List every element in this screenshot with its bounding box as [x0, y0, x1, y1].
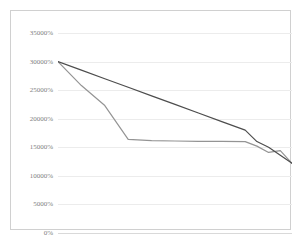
y-tick-label: 0% — [11, 229, 53, 237]
y-tick-label: 25000% — [11, 86, 53, 94]
line-series-1 — [58, 62, 292, 164]
y-tick-label: 35000% — [11, 29, 53, 37]
line-series-2 — [58, 62, 292, 164]
y-tick-label: 5000% — [11, 200, 53, 208]
y-tick-label: 30000% — [11, 58, 53, 66]
y-tick-label: 10000% — [11, 172, 53, 180]
y-tick-label: 20000% — [11, 115, 53, 123]
gridline-0% — [58, 233, 292, 234]
chart-frame: 35000%30000%25000%20000%15000%10000%5000… — [10, 10, 291, 230]
y-tick-label: 15000% — [11, 143, 53, 151]
plot-series-group — [58, 33, 292, 233]
